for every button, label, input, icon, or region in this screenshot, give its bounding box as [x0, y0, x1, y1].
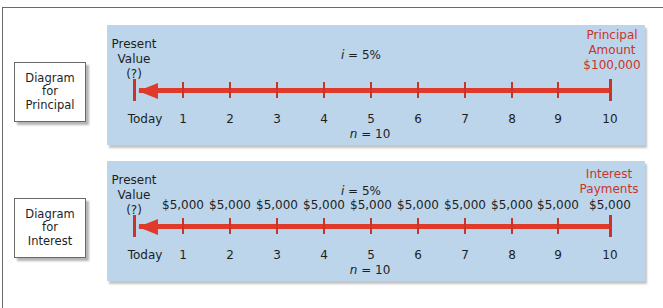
- end-label-line: Interest: [580, 167, 639, 182]
- start-bar: [133, 215, 136, 237]
- end-label-line: $100,000: [583, 58, 640, 73]
- tick-mark: [557, 82, 559, 98]
- interest-rate-label: i = 5%: [341, 48, 381, 62]
- periods-var: n: [350, 263, 358, 277]
- interest-rate-label: i = 5%: [341, 184, 381, 198]
- period-label: 3: [273, 248, 281, 262]
- period-label: 4: [320, 112, 328, 126]
- period-label: Today: [128, 248, 163, 262]
- periods-value: = 10: [357, 263, 390, 277]
- tick-mark: [229, 218, 231, 234]
- tick-mark: [417, 218, 419, 234]
- arrow-left-icon: [138, 219, 158, 235]
- label-line: Interest: [28, 235, 72, 249]
- interest-timeline-panel: Present Value (?) i = 5% Interest Paymen…: [107, 161, 645, 281]
- period-label: 7: [461, 112, 469, 126]
- periods-var: n: [350, 127, 358, 141]
- tick-mark: [417, 82, 419, 98]
- period-label: 2: [226, 112, 234, 126]
- period-label: 9: [554, 248, 562, 262]
- end-label-line: Payments: [580, 182, 639, 197]
- payment-amount: $5,000: [397, 198, 439, 212]
- tick-mark: [323, 218, 325, 234]
- tick-mark: [370, 218, 372, 234]
- interest-diagram-label: Diagram for Interest: [14, 198, 86, 258]
- periods-value: = 10: [357, 127, 390, 141]
- timeline-arrow-line: [139, 88, 611, 93]
- payment-amount: $5,000: [256, 198, 298, 212]
- pv-line: Present: [111, 173, 156, 188]
- period-label: 1: [179, 248, 187, 262]
- principal-amount-label: Principal Amount $100,000: [583, 28, 640, 73]
- label-line: Principal: [25, 99, 74, 113]
- payment-amount: $5,000: [209, 198, 251, 212]
- label-line: Diagram: [25, 208, 74, 222]
- payment-amount: $5,000: [444, 198, 486, 212]
- payment-amount: $5,000: [303, 198, 345, 212]
- arrow-left-icon: [138, 83, 158, 99]
- timeline-arrow-line: [139, 224, 611, 229]
- principal-timeline-panel: Present Value (?) i = 5% Principal Amoun…: [107, 25, 645, 145]
- rate-value: = 5%: [344, 184, 381, 198]
- start-bar: [133, 79, 136, 101]
- present-value-label: Present Value (?): [111, 37, 156, 82]
- tick-mark: [557, 218, 559, 234]
- payment-amount: $5,000: [491, 198, 533, 212]
- period-label: 6: [414, 248, 422, 262]
- period-label: 9: [554, 112, 562, 126]
- tick-mark: [182, 82, 184, 98]
- period-label: 10: [602, 112, 617, 126]
- payment-amount: $5,000: [350, 198, 392, 212]
- period-label: 3: [273, 112, 281, 126]
- pv-line: Value: [111, 188, 156, 203]
- label-line: Diagram: [25, 72, 74, 86]
- end-bar: [609, 79, 612, 101]
- periods-label: n = 10: [350, 127, 391, 141]
- tick-mark: [276, 82, 278, 98]
- payment-amount: $5,000: [589, 198, 631, 212]
- principal-diagram-label: Diagram for Principal: [14, 62, 86, 122]
- period-label: 2: [226, 248, 234, 262]
- tick-mark: [370, 82, 372, 98]
- tick-mark: [511, 218, 513, 234]
- tick-mark: [511, 82, 513, 98]
- present-value-label: Present Value (?): [111, 173, 156, 218]
- label-line: for: [42, 221, 58, 235]
- period-label: 10: [602, 248, 617, 262]
- tick-mark: [182, 218, 184, 234]
- tick-mark: [276, 218, 278, 234]
- periods-label: n = 10: [350, 263, 391, 277]
- tick-mark: [464, 82, 466, 98]
- tick-mark: [464, 218, 466, 234]
- interest-payments-label: Interest Payments: [580, 167, 639, 197]
- tick-mark: [323, 82, 325, 98]
- end-label-line: Principal: [583, 28, 640, 43]
- period-label: 8: [508, 248, 516, 262]
- tick-mark: [229, 82, 231, 98]
- pv-line: Value: [111, 52, 156, 67]
- payment-amount: $5,000: [537, 198, 579, 212]
- period-label: Today: [128, 112, 163, 126]
- period-label: 5: [367, 112, 375, 126]
- period-label: 5: [367, 248, 375, 262]
- pv-line: Present: [111, 37, 156, 52]
- end-label-line: Amount: [583, 43, 640, 58]
- period-label: 4: [320, 248, 328, 262]
- rate-value: = 5%: [344, 48, 381, 62]
- period-label: 1: [179, 112, 187, 126]
- end-bar: [609, 215, 612, 237]
- period-label: 7: [461, 248, 469, 262]
- label-line: for: [42, 85, 58, 99]
- period-label: 8: [508, 112, 516, 126]
- payment-amount: $5,000: [162, 198, 204, 212]
- period-label: 6: [414, 112, 422, 126]
